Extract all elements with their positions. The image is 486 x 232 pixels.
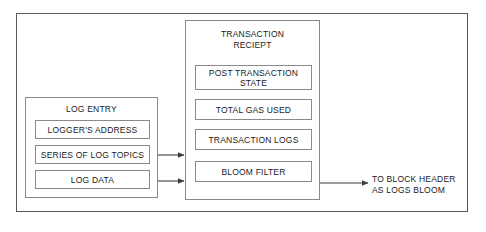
transaction-receipt-title: TRANSACTION RECIEPT <box>186 29 319 51</box>
log-entry-box: LOG ENTRY LOGGER'S ADDRESS SERIES OF LOG… <box>25 97 158 198</box>
outflow-label: TO BLOCK HEADER AS LOGS BLOOM <box>372 174 472 196</box>
receipt-item-transaction-logs: TRANSACTION LOGS <box>195 129 312 150</box>
receipt-item-total-gas-used: TOTAL GAS USED <box>195 99 312 120</box>
outflow-label-line2: AS LOGS BLOOM <box>372 185 472 196</box>
log-entry-title: LOG ENTRY <box>26 104 157 115</box>
log-entry-item-log-data: LOG DATA <box>35 170 150 189</box>
log-entry-item-series-of-log-topics: SERIES OF LOG TOPICS <box>35 145 150 164</box>
log-entry-item-loggers-address: LOGGER'S ADDRESS <box>35 120 150 139</box>
transaction-receipt-box: TRANSACTION RECIEPT POST TRANSACTION STA… <box>185 20 320 200</box>
receipt-item-bloom-filter: BLOOM FILTER <box>195 161 312 182</box>
transaction-receipt-title-line2: RECIEPT <box>186 40 319 51</box>
diagram-canvas: LOG ENTRY LOGGER'S ADDRESS SERIES OF LOG… <box>0 0 486 232</box>
transaction-receipt-title-line1: TRANSACTION <box>186 29 319 40</box>
receipt-item-post-transaction-state: POST TRANSACTION STATE <box>195 65 312 90</box>
outflow-label-line1: TO BLOCK HEADER <box>372 174 472 185</box>
